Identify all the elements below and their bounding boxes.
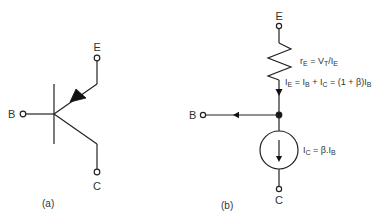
panel-a-emitter-label: E [94,41,101,53]
panel-a-caption: (a) [42,198,54,209]
panel-b-caption: (b) [221,200,233,211]
panel-a-base-label: B [8,108,15,120]
panel-a [20,55,100,175]
collector-terminal [94,169,100,175]
panel-a-collector-label: C [93,180,101,192]
panel-b-collector-label: C [275,194,283,206]
panel-b [200,23,298,191]
emitter-current-arrow-icon [276,89,283,96]
emitter-arrow-icon [70,89,86,102]
resistor-equation: rE = VT/IE [300,56,338,67]
resistor-re [268,43,291,80]
emitter-terminal [94,55,100,61]
emitter-current-equation: IE = IB + IC = (1 + β)IB [285,77,372,88]
b-emitter-terminal [276,23,281,28]
collector-diagonal [54,114,97,144]
panel-b-base-label: B [189,109,196,121]
current-source-arrow-icon [276,156,282,162]
base-current-arrow-icon [233,112,239,118]
b-base-terminal [200,112,205,117]
base-terminal [20,111,26,117]
b-collector-terminal [276,186,281,191]
diagram-canvas: B E C (a) E B C (b) rE = VT/IE [0,0,378,221]
source-equation: IC = β.IB [303,145,336,156]
panel-b-emitter-label: E [276,10,283,22]
